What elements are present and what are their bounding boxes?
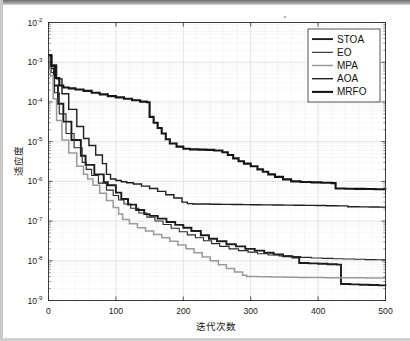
convergence-chart: 10-210-310-410-510-610-710-810-901002003… (0, 0, 410, 341)
x-tick-label: 100 (109, 306, 124, 316)
x-tick-label: 300 (244, 306, 259, 316)
legend-label-stoa: STOA (337, 34, 364, 45)
y-tick-label: 10-2 (28, 16, 44, 27)
y-tick-label: 10-8 (28, 254, 44, 265)
y-axis-title: 适应度 (13, 146, 24, 176)
legend-label-mpa: MPA (337, 60, 358, 71)
x-axis-title: 迭代次数 (196, 321, 236, 332)
y-tick-label: 10-3 (28, 56, 44, 67)
y-tick-label: 10-7 (28, 215, 44, 226)
figure-container: 10-210-310-410-510-610-710-810-901002003… (0, 0, 410, 341)
y-tick-label: 10-6 (28, 175, 44, 186)
legend-label-mrfo: MRFO (337, 86, 367, 97)
legend-label-eo: EO (337, 47, 352, 58)
y-tick-label: 10-4 (28, 96, 44, 107)
legend-label-aoa: AOA (337, 73, 358, 84)
x-tick-label: 400 (311, 306, 326, 316)
legend[interactable]: STOAEOMPAAOAMRFO (308, 29, 380, 102)
window-top-strip (0, 0, 410, 5)
x-tick-label: 0 (46, 306, 51, 316)
y-tick-label: 10-9 (28, 294, 44, 305)
y-tick-label: 10-5 (28, 135, 44, 146)
artifact-speck-icon (284, 16, 287, 19)
x-tick-label: 200 (176, 306, 191, 316)
left-edge-border (0, 0, 3, 341)
x-tick-label: 500 (378, 306, 393, 316)
